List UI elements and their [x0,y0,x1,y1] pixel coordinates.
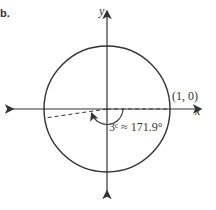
terminal-side [45,109,107,118]
unit-circle-diagram [0,0,216,210]
